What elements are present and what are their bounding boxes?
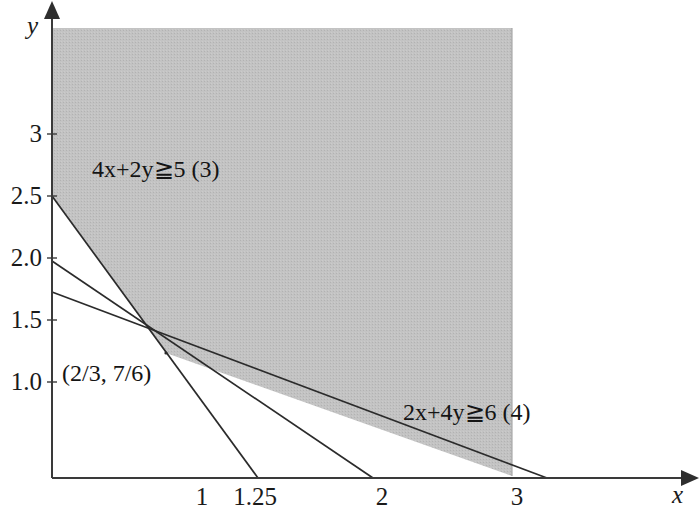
x-tick-label-1: 1 bbox=[187, 483, 217, 511]
y-tick-label-1.0: 1.0 bbox=[0, 368, 42, 396]
y-tick-label-2.0: 2.0 bbox=[0, 244, 42, 272]
x-tick-label-2: 2 bbox=[367, 483, 397, 511]
y-tick-label-2.5: 2.5 bbox=[0, 182, 42, 210]
plot-svg bbox=[0, 0, 699, 528]
y-axis-label: y bbox=[27, 12, 38, 40]
constraint-3-label: 4x+2y≧5 (3) bbox=[92, 155, 220, 183]
y-tick-label-3: 3 bbox=[0, 120, 42, 148]
y-tick-label-1.5: 1.5 bbox=[0, 306, 42, 334]
constraint-4-label: 2x+4y≧6 (4) bbox=[403, 398, 531, 426]
vertex-point bbox=[164, 351, 167, 354]
x-axis-label: x bbox=[672, 481, 683, 509]
vertex-coordinate-label: (2/3, 7/6) bbox=[62, 360, 151, 387]
figure-container: y x 3 2.5 2.0 1.5 1.0 1 1.25 2 3 4x+2y≧5… bbox=[0, 0, 699, 528]
x-tick-label-1.25: 1.25 bbox=[224, 483, 286, 511]
x-tick-label-3: 3 bbox=[502, 483, 532, 511]
